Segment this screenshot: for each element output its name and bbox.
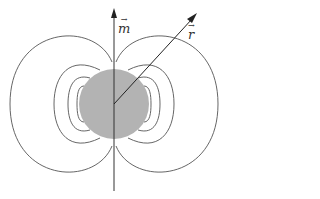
position-label: →r [188, 28, 194, 41]
vector-arrow-mark: → [118, 16, 130, 24]
axis-arrowhead-icon [111, 8, 117, 18]
vector-arrow-mark: → [188, 22, 194, 30]
moment-label: →m [118, 22, 130, 35]
